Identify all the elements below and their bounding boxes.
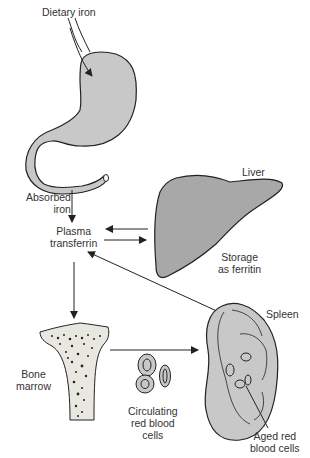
spleen-icon [205, 303, 278, 440]
label-dietary-iron: Dietary iron [42, 6, 96, 18]
label-plasma-transferrin: Plasma transferrin [50, 225, 97, 249]
label-spleen: Spleen [266, 308, 299, 320]
iron-metabolism-diagram: Dietary iron Absorbed iron Plasma transf… [0, 0, 310, 458]
label-circulating-rbc: Circulating red blood cells [128, 405, 178, 441]
label-aged-rbc: Aged red blood cells [250, 430, 300, 454]
red-blood-cells-icon [136, 354, 171, 393]
label-liver: Liver [242, 166, 265, 178]
label-absorbed-iron: Absorbed iron [26, 191, 71, 215]
stomach-icon [26, 52, 137, 194]
label-bone-marrow: Bone marrow [16, 368, 51, 392]
label-storage-ferritin: Storage as ferritin [218, 251, 261, 275]
